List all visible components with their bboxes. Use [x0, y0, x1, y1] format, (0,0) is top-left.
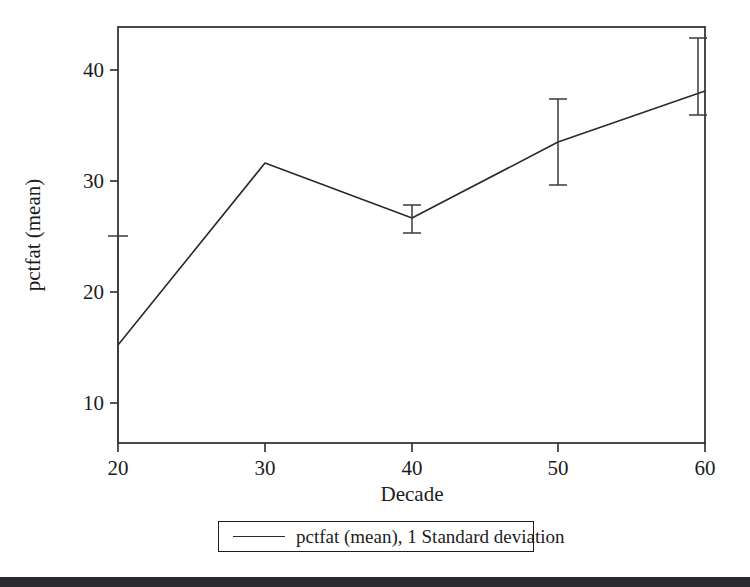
y-axis-title: pctfat (mean) [21, 179, 46, 292]
x-axis-ticks [118, 443, 705, 452]
y-tick-label-40: 40 [62, 60, 104, 81]
x-tick-label-40: 40 [402, 458, 423, 479]
legend: pctfat (mean), 1 Standard deviation [218, 521, 534, 552]
legend-entry-label: pctfat (mean), 1 Standard deviation [296, 527, 565, 546]
x-tick-label-20: 20 [108, 458, 129, 479]
error-bar-decade-20 [108, 236, 128, 443]
page-scan-band [0, 577, 750, 587]
y-tick-label-20: 20 [62, 282, 104, 303]
error-bars [108, 38, 707, 443]
x-tick-label-30: 30 [255, 458, 276, 479]
line-sample-icon [233, 536, 285, 537]
error-bar-decade-50 [549, 99, 567, 185]
pctfat-by-decade-chart: 10 20 30 40 20 30 40 50 60 Decade pctfat… [0, 0, 750, 587]
x-axis-title: Decade [381, 482, 444, 507]
plot-canvas [0, 0, 750, 587]
y-tick-label-10: 10 [62, 393, 104, 414]
error-bar-decade-40 [403, 205, 421, 233]
y-tick-label-30: 30 [62, 171, 104, 192]
x-tick-label-50: 50 [548, 458, 569, 479]
figure-page: 10 20 30 40 20 30 40 50 60 Decade pctfat… [0, 0, 750, 587]
x-tick-label-60: 60 [695, 458, 716, 479]
